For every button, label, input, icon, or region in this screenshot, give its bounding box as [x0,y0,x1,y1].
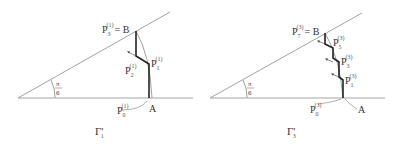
diagram-gamma1: π 6 P3(1)= B P2(1) P1(1) P0(1) A Γ′1 [18,12,193,139]
label-p1: P1(1) [151,56,163,71]
angle-arc [51,80,55,98]
angle-num: π [56,80,60,88]
caption-gamma3: Γ′3 [287,125,296,139]
diagram-canvas: π 6 P3(1)= B P2(1) P1(1) P0(1) A Γ′1 π 6… [0,0,400,150]
label-p1: P1(3) [345,73,357,88]
label-a: A [358,104,366,115]
label-p5: P5(3) [333,35,345,50]
pointer-a [345,99,357,109]
approx-path [136,31,149,98]
caption-gamma1: Γ′1 [95,125,104,139]
diagram-gamma3: π 6 P7(3)= B P5(3) P3(3) P1(3) P0(3) A Γ… [210,13,385,139]
angle-arc [243,80,247,98]
label-p7: P7(3)= B [292,24,320,39]
label-p0: P0(3) [310,102,322,117]
label-a: A [149,103,157,114]
label-p2: P2(1) [125,63,137,78]
angle-den: 6 [56,89,60,97]
angled-line [210,13,362,98]
label-p3: P3(1)= B [102,22,130,37]
angle-den: 6 [248,89,252,97]
label-p0: P0(1) [117,103,129,118]
label-p3: P3(3) [341,54,353,69]
angled-line [18,12,170,98]
angle-num: π [248,80,252,88]
